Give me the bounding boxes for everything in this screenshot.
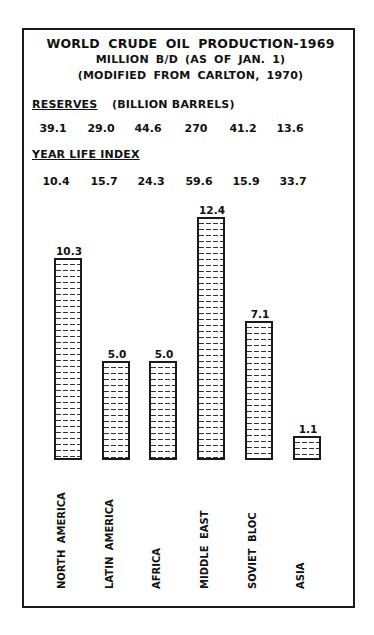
category-label: LATIN AMERICA [104, 499, 115, 589]
year-life-value: 59.6 [179, 175, 219, 188]
bar-value-label: 5.0 [97, 348, 137, 360]
chart-title: WORLD CRUDE OIL PRODUCTION-1969 [24, 36, 357, 51]
bar-value-label: 12.4 [192, 204, 232, 216]
bar-middle-east [197, 217, 225, 460]
chart-frame: WORLD CRUDE OIL PRODUCTION-1969 MILLION … [22, 28, 355, 608]
bar-north-america [54, 258, 82, 460]
year-life-value: 15.7 [84, 175, 124, 188]
chart-subtitle: MILLION B/D (AS OF JAN. 1) [24, 53, 357, 66]
year-life-value: 10.4 [36, 175, 76, 188]
bar-soviet-bloc [245, 321, 273, 460]
year-life-value: 33.7 [273, 175, 313, 188]
year-life-value: 24.3 [131, 175, 171, 188]
reserves-value: 29.0 [81, 122, 121, 135]
bar-value-label: 7.1 [240, 308, 280, 320]
reserves-value: 270 [176, 122, 216, 135]
bar-latin-america [102, 361, 130, 460]
bar-value-label: 5.0 [144, 348, 184, 360]
reserves-value: 39.1 [33, 122, 73, 135]
year-life-value: 15.9 [226, 175, 266, 188]
reserves-value: 13.6 [270, 122, 310, 135]
category-label: ASIA [295, 563, 306, 589]
bar-value-label: 1.1 [288, 423, 328, 435]
reserves-label: RESERVES [32, 98, 97, 111]
category-label: SOVIET BLOC [247, 512, 258, 589]
chart-source: (MODIFIED FROM CARLTON, 1970) [24, 69, 357, 82]
year-life-label: YEAR LIFE INDEX [32, 148, 140, 161]
bar-asia [293, 436, 321, 460]
reserves-note: (BILLION BARRELS) [112, 98, 235, 111]
category-label: AFRICA [151, 548, 162, 589]
reserves-value: 41.2 [223, 122, 263, 135]
reserves-value: 44.6 [128, 122, 168, 135]
category-label: NORTH AMERICA [56, 492, 67, 589]
category-label: MIDDLE EAST [199, 510, 210, 589]
bar-value-label: 10.3 [49, 245, 89, 257]
bar-africa [149, 361, 177, 460]
